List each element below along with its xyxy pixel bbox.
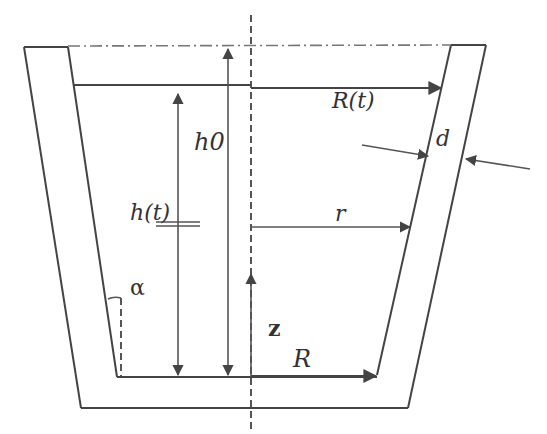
label-z: z xyxy=(268,315,281,341)
label-alpha: α xyxy=(130,275,145,300)
label-r: r xyxy=(335,201,347,226)
label-d: d xyxy=(436,126,450,151)
vessel-diagram: h0 h(t) R(t) r R z d α xyxy=(0,0,547,434)
label-R-t: R(t) xyxy=(331,88,375,113)
d-arrow-left xyxy=(362,145,428,156)
d-arrow-right xyxy=(466,159,530,169)
label-h-t: h(t) xyxy=(130,200,170,225)
alpha-arc xyxy=(108,297,121,299)
inner-wall xyxy=(68,45,451,377)
rim-line xyxy=(68,45,451,46)
label-R: R xyxy=(292,345,311,373)
label-h0: h0 xyxy=(194,128,225,156)
